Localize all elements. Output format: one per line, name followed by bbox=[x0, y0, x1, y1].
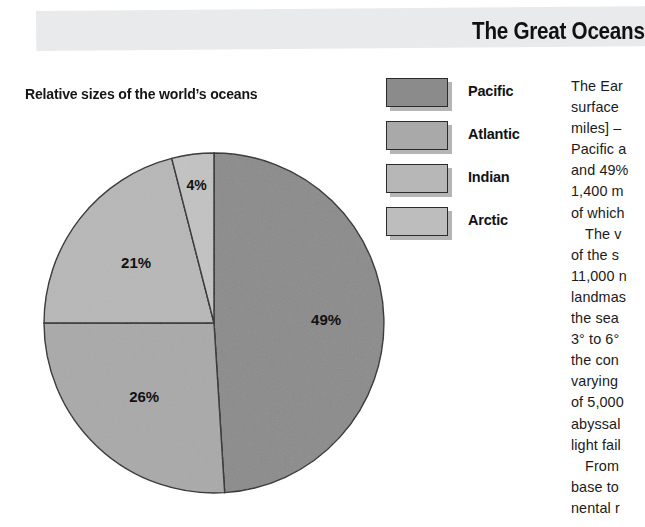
pie-slice-atlantic[interactable] bbox=[44, 323, 225, 493]
legend-swatch-indian bbox=[386, 164, 448, 193]
pie-slice-pacific[interactable] bbox=[214, 153, 384, 493]
pie-label-indian: 21% bbox=[121, 254, 151, 271]
page-title: The Great Oceans bbox=[472, 17, 645, 45]
legend-label-arctic: Arctic bbox=[468, 212, 508, 228]
legend-item-pacific[interactable]: Pacific bbox=[386, 78, 566, 121]
article-line: From bbox=[571, 456, 645, 477]
page-header: The Great Oceans bbox=[0, 0, 645, 70]
article-line: Pacific a bbox=[571, 139, 645, 160]
article-line: miles] – bbox=[571, 118, 645, 139]
article-line: varying bbox=[571, 371, 645, 392]
article-line: abyssal bbox=[571, 414, 645, 435]
article-line: the sea bbox=[571, 308, 645, 329]
article-line: 11,000 n bbox=[571, 266, 645, 287]
pie-chart: 49%26%21%4% bbox=[36, 145, 396, 510]
pie-label-arctic: 4% bbox=[186, 177, 207, 193]
pie-chart-svg: 49%26%21%4% bbox=[36, 145, 396, 510]
legend-item-arctic[interactable]: Arctic bbox=[386, 207, 566, 250]
article-line: the con bbox=[571, 350, 645, 371]
legend-label-indian: Indian bbox=[468, 169, 510, 185]
legend-item-atlantic[interactable]: Atlantic bbox=[386, 121, 566, 164]
article-line: of 5,000 bbox=[571, 392, 645, 413]
legend-label-atlantic: Atlantic bbox=[468, 126, 520, 142]
article-line: of the s bbox=[571, 245, 645, 266]
article-line: light fail bbox=[571, 435, 645, 456]
legend-swatch-arctic bbox=[386, 207, 448, 236]
pie-label-atlantic: 26% bbox=[129, 388, 159, 405]
article-line: 3° to 6° bbox=[571, 329, 645, 350]
article-line: surface bbox=[571, 97, 645, 118]
article-line: The v bbox=[571, 224, 645, 245]
chart-legend: Pacific Atlantic Indian Arctic bbox=[386, 78, 566, 250]
article-line: The Ear bbox=[571, 76, 645, 97]
article-line: base to bbox=[571, 477, 645, 498]
article-text-column: The Earsurfacemiles] –Pacific aand 49%1,… bbox=[571, 76, 645, 527]
article-line: 1,400 m bbox=[571, 181, 645, 202]
article-line: and 49% bbox=[571, 160, 645, 181]
legend-swatch-pacific bbox=[386, 78, 448, 107]
article-line: nental r bbox=[571, 498, 645, 519]
pie-label-pacific: 49% bbox=[311, 311, 341, 328]
legend-item-indian[interactable]: Indian bbox=[386, 164, 566, 207]
legend-label-pacific: Pacific bbox=[468, 83, 513, 99]
article-line: of which bbox=[571, 203, 645, 224]
article-line: landmas bbox=[571, 287, 645, 308]
chart-title: Relative sizes of the world’s oceans bbox=[25, 86, 257, 102]
legend-swatch-atlantic bbox=[386, 121, 448, 150]
